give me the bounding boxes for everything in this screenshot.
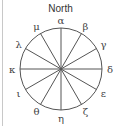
direction-label: η — [58, 113, 64, 124]
spoke-line — [61, 69, 82, 105]
direction-label: κ — [9, 64, 16, 75]
direction-label: γ — [100, 39, 106, 50]
spoke-line — [61, 33, 82, 69]
spoke-line — [61, 49, 97, 70]
direction-label: λ — [15, 39, 22, 50]
direction-label: μ — [33, 21, 40, 32]
direction-label: ι — [17, 88, 21, 99]
spoke-line — [41, 33, 62, 69]
direction-label: θ — [33, 106, 39, 117]
direction-label: β — [83, 21, 89, 32]
spoke-line — [61, 69, 97, 90]
direction-label: α — [58, 15, 65, 26]
spoke-line — [41, 69, 62, 105]
direction-label: ε — [101, 88, 106, 99]
compass-rose: αβγδεζηθικλμ — [0, 0, 121, 126]
spoke-line — [25, 69, 61, 90]
direction-label: δ — [107, 64, 113, 75]
spoke-line — [25, 49, 61, 70]
direction-label: ζ — [83, 106, 89, 117]
